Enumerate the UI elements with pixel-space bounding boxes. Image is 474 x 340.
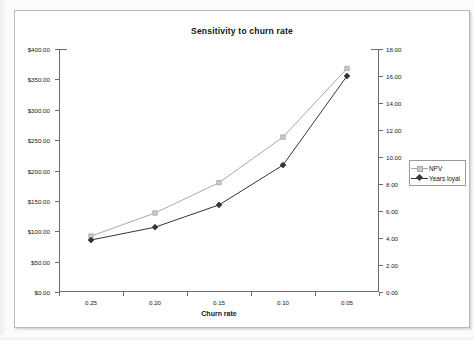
scan-edge-bottom: [0, 335, 474, 340]
left-axis-tick: [55, 201, 59, 202]
left-axis-tick: [55, 231, 59, 232]
legend-item-label: NPV: [428, 165, 442, 172]
chart-canvas: Sensitivity to churn rate Churn rate NPV…: [0, 0, 474, 340]
left-axis-tick-label: $200.00: [28, 167, 50, 174]
x-axis-tick: [251, 292, 252, 296]
x-axis-tick-label: 0.25: [85, 299, 97, 306]
left-axis-tick-label: $250.00: [28, 137, 50, 144]
right-axis-tick-label: 4.00: [386, 235, 398, 242]
data-point-marker: [216, 202, 222, 208]
left-axis-tick-label: $350.00: [28, 76, 50, 83]
right-axis-tick: [379, 130, 383, 131]
left-axis-tick-label: $300.00: [28, 106, 50, 113]
data-point-marker: [152, 224, 158, 230]
x-axis-tick: [379, 292, 380, 296]
right-axis-tick: [379, 184, 383, 185]
right-axis-tick-label: 16.00: [386, 73, 401, 80]
x-axis-tick: [59, 292, 60, 296]
data-point-marker: [153, 211, 157, 215]
right-axis-tick-label: 2.00: [386, 262, 398, 269]
data-point-marker: [281, 135, 285, 139]
x-axis-tick: [315, 292, 316, 296]
right-axis-tick: [379, 49, 383, 50]
chart-legend: NPVYears loyal: [409, 160, 466, 186]
x-axis-title: Churn rate: [59, 310, 379, 317]
legend-diamond-marker-icon: [411, 173, 428, 183]
right-axis-tick-label: 18.00: [386, 46, 401, 53]
x-axis-tick-label: 0.20: [149, 299, 161, 306]
left-axis-tick: [55, 79, 59, 80]
left-axis-tick-label: $400.00: [28, 46, 50, 53]
right-axis-tick-label: 8.00: [386, 181, 398, 188]
left-axis-tick-label: $100.00: [28, 228, 50, 235]
right-axis-tick-label: 6.00: [386, 208, 398, 215]
data-point-marker: [217, 180, 221, 184]
right-axis-tick-label: 10.00: [386, 154, 401, 161]
right-axis-tick-label: 12.00: [386, 127, 401, 134]
legend-item-npv[interactable]: NPV: [411, 163, 463, 173]
x-axis-tick-label: 0.05: [341, 299, 353, 306]
right-axis-tick: [379, 238, 383, 239]
x-axis-tick: [187, 292, 188, 296]
right-axis-tick: [379, 211, 383, 212]
right-axis-tick-label: 14.00: [386, 100, 401, 107]
right-axis-tick: [379, 103, 383, 104]
right-axis-tick: [379, 157, 383, 158]
data-point-marker: [345, 66, 349, 70]
left-axis-tick-label: $50.00: [31, 258, 50, 265]
right-axis-tick-label: 0.00: [386, 289, 398, 296]
right-axis-tick: [379, 76, 383, 77]
right-axis-tick: [379, 265, 383, 266]
left-axis-tick: [55, 49, 59, 50]
x-axis-tick: [123, 292, 124, 296]
left-axis-tick: [55, 110, 59, 111]
series-line-npv: [91, 68, 347, 236]
legend-item-years-loyal[interactable]: Years loyal: [411, 173, 463, 183]
scan-edge-left: [0, 0, 6, 340]
left-axis-tick: [55, 140, 59, 141]
x-axis-tick-label: 0.10: [277, 299, 289, 306]
x-axis-tick-label: 0.15: [213, 299, 225, 306]
legend-square-marker-icon: [411, 163, 428, 173]
series-line-years-loyal: [91, 76, 347, 240]
left-axis-tick: [55, 262, 59, 263]
series-layer: [15, 11, 469, 327]
left-axis-tick-label: $0.00: [35, 289, 50, 296]
legend-item-label: Years loyal: [428, 175, 460, 182]
left-axis-tick-label: $150.00: [28, 197, 50, 204]
left-axis-tick: [55, 171, 59, 172]
chart-paper-frame: Sensitivity to churn rate Churn rate NPV…: [14, 10, 470, 328]
